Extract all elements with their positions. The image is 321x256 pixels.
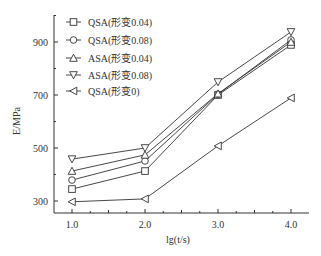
triangle-left-legend-icon bbox=[70, 87, 77, 95]
legend-item: ASA(形变0.08) bbox=[66, 69, 152, 82]
triangle-left-marker-icon bbox=[68, 198, 75, 206]
y-axis-label: E/MPa bbox=[11, 107, 22, 135]
square-marker-icon bbox=[69, 186, 76, 193]
x-tick-label: 4.0 bbox=[285, 219, 298, 230]
legend-item: QSA(形变0) bbox=[66, 85, 140, 98]
x-tick-label: 1.0 bbox=[66, 219, 79, 230]
x-tick-label: 2.0 bbox=[139, 219, 152, 230]
legend-label: ASA(形变0.04) bbox=[88, 52, 152, 65]
triangle-down-marker-icon bbox=[68, 156, 76, 163]
circle-legend-icon bbox=[70, 37, 77, 44]
triangle-left-marker-icon bbox=[141, 195, 148, 203]
triangle-left-marker-icon bbox=[214, 142, 221, 150]
x-axis-label: lg(t/s) bbox=[166, 234, 190, 246]
y-tick-label: 300 bbox=[33, 196, 48, 207]
circle-marker-icon bbox=[69, 177, 76, 184]
line-chart: 3005007009001.02.03.04.0 QSA(形变0.04)QSA(… bbox=[0, 0, 321, 256]
series-line bbox=[72, 45, 291, 189]
axes: 3005007009001.02.03.04.0 bbox=[33, 15, 309, 230]
legend-item: ASA(形变0.04) bbox=[66, 52, 152, 65]
square-marker-icon bbox=[142, 168, 149, 175]
legend-label: ASA(形变0.08) bbox=[88, 69, 152, 82]
triangle-down-marker-icon bbox=[287, 29, 295, 36]
legend-item: QSA(形变0.04) bbox=[66, 16, 152, 29]
legend-label: QSA(形变0) bbox=[88, 85, 140, 98]
legend-item: QSA(形变0.08) bbox=[66, 34, 152, 47]
series-square bbox=[69, 42, 295, 193]
legend-label: QSA(形变0.08) bbox=[88, 34, 152, 47]
series-line bbox=[72, 98, 291, 202]
y-tick-label: 900 bbox=[33, 37, 48, 48]
circle-marker-icon bbox=[142, 158, 149, 165]
square-legend-icon bbox=[70, 19, 77, 26]
series-triangle-left bbox=[68, 94, 294, 205]
legend: QSA(形变0.04)QSA(形变0.08)ASA(形变0.04)ASA(形变0… bbox=[66, 16, 152, 98]
triangle-left-marker-icon bbox=[287, 94, 294, 102]
y-tick-label: 700 bbox=[33, 90, 48, 101]
x-tick-label: 3.0 bbox=[212, 219, 225, 230]
legend-label: QSA(形变0.04) bbox=[88, 16, 152, 29]
y-tick-label: 500 bbox=[33, 143, 48, 154]
